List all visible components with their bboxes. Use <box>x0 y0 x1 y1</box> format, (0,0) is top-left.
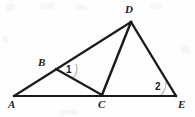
vertex-dot-E <box>175 95 178 98</box>
vertex-dot-C <box>101 94 104 97</box>
segment-BC <box>56 69 102 95</box>
vertex-label-A: A <box>8 99 15 110</box>
angle-label-1: 1 <box>66 65 72 75</box>
vertex-dot-B <box>55 68 58 71</box>
vertex-dot-D <box>129 20 132 23</box>
vertex-dot-A <box>13 95 16 98</box>
segment-DC <box>102 22 131 95</box>
angle-1-arc <box>73 64 77 78</box>
segment-AD <box>14 22 131 96</box>
geometry-figure: A B C D E 1 2 <box>0 0 195 117</box>
vertex-label-C: C <box>98 99 105 110</box>
vertex-label-B: B <box>38 57 45 68</box>
angle-label-2: 2 <box>155 82 161 92</box>
angle-arc-group <box>73 64 166 96</box>
vertex-label-D: D <box>125 4 133 15</box>
vertex-label-E: E <box>178 99 185 110</box>
segment-DE <box>131 22 176 96</box>
